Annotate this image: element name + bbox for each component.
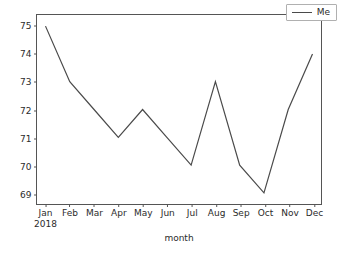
x-axis-tick: Feb — [62, 204, 78, 219]
x-axis-tick-mark — [216, 204, 217, 207]
x-axis-tick-mark — [192, 204, 193, 207]
legend: Me — [286, 4, 337, 21]
x-axis-tick-label: Feb — [62, 208, 78, 219]
y-axis-tick: 69 — [20, 190, 37, 199]
x-axis-tick: Mar — [86, 204, 103, 219]
y-axis-tick-mark — [34, 54, 37, 55]
x-axis-tick-mark — [265, 204, 266, 207]
y-axis-tick-label: 74 — [20, 50, 34, 59]
x-axis-tick: Jan2018 — [34, 204, 57, 230]
legend-swatch-me — [292, 12, 312, 13]
x-axis-tick-label: Sep — [233, 208, 250, 219]
series-polyline — [46, 26, 313, 193]
x-axis-tick-mark — [289, 204, 290, 207]
x-axis-tick: May — [134, 204, 153, 219]
y-axis-tick-mark — [34, 194, 37, 195]
y-axis-tick-mark — [34, 82, 37, 83]
x-axis-tick-mark — [118, 204, 119, 207]
x-axis-tick-mark — [94, 204, 95, 207]
x-axis-tick: Sep — [233, 204, 250, 219]
series-line-me — [37, 15, 321, 204]
legend-label-me: Me — [317, 8, 330, 17]
x-axis-tick-label: Dec — [306, 208, 323, 219]
x-axis-tick-label: Oct — [258, 208, 274, 219]
x-axis-tick-label: Jun — [161, 208, 175, 219]
x-axis-tick: Nov — [281, 204, 299, 219]
x-axis-tick-label: Jul — [187, 208, 198, 219]
y-axis-tick: 73 — [20, 78, 37, 87]
y-axis-tick: 74 — [20, 50, 37, 59]
x-axis-tick: Oct — [258, 204, 274, 219]
y-axis-tick-mark — [34, 110, 37, 111]
x-axis-tick: Apr — [111, 204, 127, 219]
x-axis-tick-mark — [70, 204, 71, 207]
x-axis-tick-label: Nov — [281, 208, 299, 219]
x-axis-title: month — [36, 233, 322, 243]
x-axis-tick-mark — [45, 204, 46, 207]
x-axis-tick-mark — [167, 204, 168, 207]
y-axis-tick-label: 75 — [20, 22, 34, 31]
y-axis-tick-label: 70 — [20, 162, 34, 171]
x-axis-tick-label: Mar — [86, 208, 103, 219]
plot-area: 69707172737475Jan2018FebMarAprMayJunJulA… — [36, 14, 322, 205]
x-axis-tick: Dec — [306, 204, 323, 219]
y-axis-tick: 70 — [20, 162, 37, 171]
y-axis-tick-mark — [34, 166, 37, 167]
y-axis-tick: 71 — [20, 134, 37, 143]
x-axis-tick-label: May — [134, 208, 153, 219]
y-axis-tick-mark — [34, 26, 37, 27]
x-axis-tick-sublabel: 2018 — [34, 219, 57, 230]
y-axis-tick-label: 73 — [20, 78, 34, 87]
x-axis-tick-mark — [241, 204, 242, 207]
y-axis-tick-label: 72 — [20, 106, 34, 115]
x-axis-tick-mark — [314, 204, 315, 207]
x-axis-tick-label: Aug — [208, 208, 226, 219]
x-axis-tick-label: Apr — [111, 208, 127, 219]
y-axis-tick-label: 71 — [20, 134, 34, 143]
y-axis-tick-label: 69 — [20, 190, 34, 199]
x-axis-tick-label: Jan — [34, 208, 57, 219]
x-axis-tick: Aug — [208, 204, 226, 219]
x-axis-tick: Jun — [161, 204, 175, 219]
y-axis-tick: 75 — [20, 22, 37, 31]
x-axis-tick: Jul — [187, 204, 198, 219]
y-axis-tick: 72 — [20, 106, 37, 115]
x-axis-tick-mark — [143, 204, 144, 207]
line-chart-figure: 69707172737475Jan2018FebMarAprMayJunJulA… — [0, 0, 341, 260]
y-axis-tick-mark — [34, 138, 37, 139]
